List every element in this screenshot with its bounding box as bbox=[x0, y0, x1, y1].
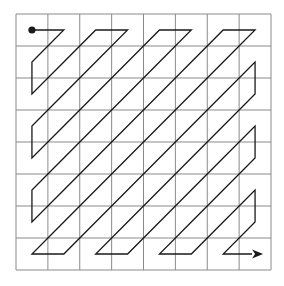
zigzag-diagram bbox=[0, 0, 284, 286]
start-dot bbox=[28, 26, 35, 33]
end-arrow-icon bbox=[252, 250, 263, 259]
